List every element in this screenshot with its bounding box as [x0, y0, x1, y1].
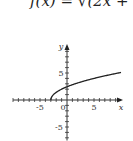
y-tick-label: 5 — [58, 69, 63, 78]
chart: -5055-5xy — [0, 0, 133, 141]
x-tick-label: -5 — [36, 103, 44, 112]
x-tick-label: 5 — [91, 103, 96, 112]
y-axis-label: y — [58, 42, 64, 51]
y-tick-label: -5 — [55, 123, 63, 132]
x-axis-arrow — [117, 98, 123, 103]
x-axis-label: x — [119, 103, 124, 112]
y-axis-arrow — [65, 44, 70, 50]
x-tick-label: 0 — [60, 103, 65, 112]
